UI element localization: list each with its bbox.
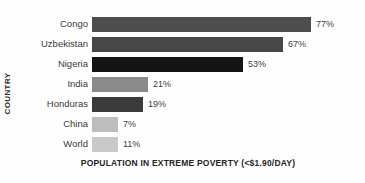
- bar-row: Honduras19%: [18, 94, 365, 114]
- category-label: Nigeria: [18, 59, 92, 69]
- bar-row: Nigeria53%: [18, 54, 365, 74]
- bar-track: 53%: [92, 54, 365, 74]
- bar[interactable]: [92, 97, 143, 112]
- bar-track: 77%: [92, 14, 365, 34]
- y-axis-title-text: COUNTRY: [3, 72, 12, 114]
- category-label: Congo: [18, 19, 92, 29]
- bar-row: India21%: [18, 74, 365, 94]
- bar-value-label: 19%: [143, 100, 166, 109]
- bar-value-label: 11%: [118, 140, 140, 149]
- category-label: India: [18, 79, 92, 89]
- bar-row: China7%: [18, 114, 365, 134]
- bar-track: 11%: [92, 134, 365, 154]
- bar-value-label: 67%: [283, 40, 306, 49]
- bar[interactable]: [92, 37, 283, 52]
- bar-value-label: 21%: [148, 80, 171, 89]
- bar-value-label: 7%: [118, 120, 136, 129]
- bar-track: 7%: [92, 114, 365, 134]
- bar[interactable]: [92, 117, 118, 132]
- bar[interactable]: [92, 137, 118, 152]
- bar-track: 67%: [92, 34, 365, 54]
- bar[interactable]: [92, 77, 148, 92]
- category-label: Uzbekistan: [18, 39, 92, 49]
- bar-chart: COUNTRY Congo77%Uzbekistan67%Nigeria53%I…: [0, 0, 365, 183]
- bar-track: 19%: [92, 94, 365, 114]
- category-label: Honduras: [18, 99, 92, 109]
- bar-row: Congo77%: [18, 14, 365, 34]
- plot-area: Congo77%Uzbekistan67%Nigeria53%India21%H…: [18, 14, 365, 154]
- bar[interactable]: [92, 17, 311, 32]
- category-label: World: [18, 139, 92, 149]
- bar[interactable]: [92, 57, 243, 72]
- x-axis-title: POPULATION IN EXTREME POVERTY (<$1.90/DA…: [18, 158, 358, 168]
- bar-row: Uzbekistan67%: [18, 34, 365, 54]
- bar-value-label: 77%: [311, 20, 334, 29]
- y-axis-title: COUNTRY: [0, 48, 14, 138]
- bar-row: World11%: [18, 134, 365, 154]
- bar-value-label: 53%: [243, 60, 266, 69]
- bar-track: 21%: [92, 74, 365, 94]
- category-label: China: [18, 119, 92, 129]
